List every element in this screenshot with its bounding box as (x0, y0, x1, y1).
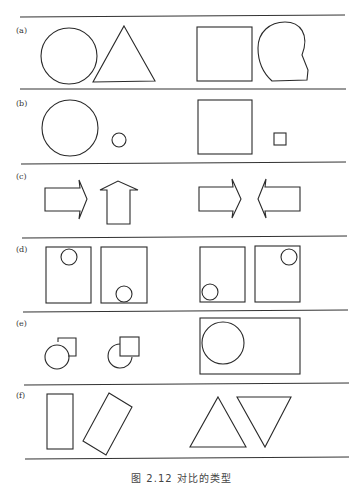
up-arrow-shape (100, 181, 138, 224)
left-arrow-shape (258, 179, 300, 218)
blob-shape (258, 22, 308, 81)
panel-d: (d) (16, 245, 300, 303)
figure-caption: 图 2.12 对比的类型 (0, 470, 363, 485)
panel-label: (b) (16, 99, 27, 108)
panel-label: (f) (16, 391, 25, 400)
square-shape (197, 27, 252, 81)
upright-triangle-shape (190, 397, 246, 447)
inverted-triangle-shape (237, 397, 291, 447)
circle-top-right-shape (281, 249, 297, 265)
separator-line (20, 15, 345, 17)
panel-f: (f) (16, 391, 291, 455)
separator-line (24, 383, 349, 385)
triangle-shape (93, 26, 155, 82)
circle-top-shape (61, 249, 77, 265)
panel-a: (a) (16, 22, 308, 84)
small-circle-shape (112, 133, 126, 147)
circle-bottom-shape (116, 286, 132, 302)
panel-separators (20, 15, 349, 459)
large-circle-shape (42, 100, 98, 156)
panel-label: (d) (16, 245, 27, 254)
separator-line (23, 310, 348, 312)
panel-e: (e) (16, 318, 300, 374)
rectangle-shape (200, 318, 300, 374)
small-square-shape (274, 133, 286, 145)
box-shape (101, 247, 147, 303)
tilted-rectangle-shape (83, 393, 132, 455)
circle-inside-shape (202, 322, 244, 364)
box-shape (200, 247, 245, 302)
right-arrow-shape (199, 179, 241, 218)
box-shape (255, 246, 300, 302)
circle-shape (41, 28, 97, 84)
circle-front-shape (45, 345, 69, 369)
right-arrow-shape (45, 180, 87, 219)
separator-line (21, 162, 346, 164)
circle-bottom-left-shape (202, 284, 218, 300)
square-front-shape (120, 337, 139, 356)
upright-rectangle-shape (47, 394, 73, 449)
panel-label: (c) (16, 172, 27, 181)
square-behind-shape (58, 338, 76, 356)
panel-b: (b) (16, 99, 286, 156)
panel-c: (c) (16, 172, 300, 224)
panel-label: (a) (16, 26, 27, 35)
box-shape (46, 247, 91, 303)
separator-line (22, 236, 347, 238)
large-square-shape (198, 100, 252, 154)
separator-line (25, 457, 349, 459)
panel-label: (e) (16, 319, 27, 328)
